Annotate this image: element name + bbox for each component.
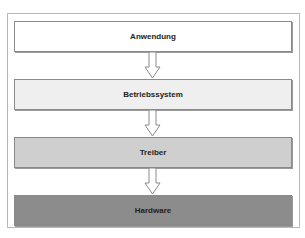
layer-label: Treiber — [140, 148, 167, 157]
layer-label: Hardware — [135, 206, 171, 215]
layer-anwendung: Anwendung — [14, 21, 292, 52]
down-arrow-icon — [144, 168, 161, 195]
layer-label: Anwendung — [130, 32, 176, 41]
layer-hardware: Hardware — [14, 195, 292, 226]
layer-treiber: Treiber — [14, 137, 292, 168]
down-arrow-icon — [144, 52, 161, 79]
layer-label: Betriebssystem — [123, 90, 183, 99]
down-arrow-icon — [144, 110, 161, 137]
layer-betriebssystem: Betriebssystem — [14, 79, 292, 110]
